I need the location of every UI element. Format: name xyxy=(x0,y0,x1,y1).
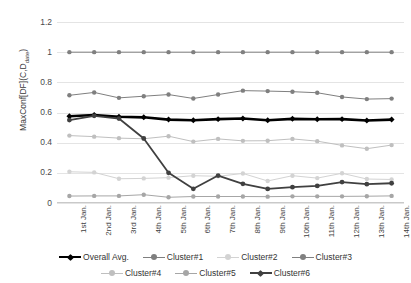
data-point xyxy=(365,147,369,151)
data-point xyxy=(315,184,320,189)
data-point xyxy=(190,117,196,123)
data-point xyxy=(241,50,245,54)
data-point xyxy=(216,194,220,198)
data-point xyxy=(241,194,245,198)
data-point xyxy=(142,193,146,197)
data-point xyxy=(117,116,122,121)
data-point xyxy=(216,173,221,178)
data-point xyxy=(67,50,71,54)
data-point xyxy=(389,96,393,100)
legend-label: Overall Avg. xyxy=(83,252,129,262)
legend-row-2: Cluster#4Cluster#5Cluster#6 xyxy=(0,265,411,281)
data-point xyxy=(265,187,270,192)
series-cluster-5 xyxy=(67,193,394,200)
x-axis-tick-label: 4th Jan. xyxy=(154,205,163,249)
data-point xyxy=(216,137,220,141)
legend-item-cluster-4[interactable]: Cluster#4 xyxy=(101,268,161,278)
legend-item-cluster-5[interactable]: Cluster#5 xyxy=(175,268,235,278)
series-cluster-2 xyxy=(67,170,394,184)
data-point xyxy=(241,139,245,143)
data-point xyxy=(240,116,246,122)
x-axis-tick-label: 9th Jan. xyxy=(278,205,287,249)
data-point xyxy=(67,133,71,137)
data-point xyxy=(339,116,345,122)
data-point xyxy=(67,170,71,174)
data-point xyxy=(166,170,171,175)
data-point xyxy=(265,139,269,143)
data-point xyxy=(290,50,294,54)
plot-area xyxy=(57,22,404,203)
data-point xyxy=(241,88,245,92)
legend-item-cluster-6[interactable]: Cluster#6 xyxy=(250,268,310,278)
data-point xyxy=(340,194,344,198)
data-point xyxy=(290,194,294,198)
data-point xyxy=(340,50,344,54)
legend-label: Cluster#1 xyxy=(167,252,203,262)
data-point xyxy=(117,177,121,181)
x-axis-tick-label: 5th Jan. xyxy=(179,205,188,249)
data-point xyxy=(215,116,221,122)
data-point xyxy=(166,134,170,138)
data-point xyxy=(290,137,294,141)
x-axis-tick-label: 3rd Jan. xyxy=(129,205,138,249)
data-point xyxy=(241,171,245,175)
data-point xyxy=(142,176,146,180)
data-point xyxy=(340,95,344,99)
data-point xyxy=(141,136,146,141)
x-axis-tick-label: 2nd Jan. xyxy=(104,205,113,249)
data-point xyxy=(389,194,393,198)
data-point xyxy=(67,194,71,198)
series-cluster-4 xyxy=(67,133,394,151)
y-axis-tick-label: 0 xyxy=(6,199,52,208)
data-point xyxy=(142,94,146,98)
data-point xyxy=(365,177,369,181)
data-point xyxy=(166,92,170,96)
x-axis-tick-label: 13th Jan. xyxy=(377,205,386,249)
data-point xyxy=(365,50,369,54)
series-cluster-6 xyxy=(67,113,394,191)
data-point xyxy=(290,89,294,93)
y-axis-tick-label: 0.8 xyxy=(6,78,52,87)
x-axis-tick-labels: 1st Jan.2nd Jan.3rd Jan.4th Jan.5th Jan.… xyxy=(57,205,404,249)
data-point xyxy=(191,174,195,178)
data-point xyxy=(389,181,394,186)
x-axis-tick-label: 8th Jan. xyxy=(253,205,262,249)
legend-item-overall-avg[interactable]: Overall Avg. xyxy=(59,252,129,262)
data-point xyxy=(389,50,393,54)
data-point xyxy=(142,50,146,54)
y-axis-tick-label: 1.2 xyxy=(6,18,52,27)
data-point xyxy=(315,139,319,143)
chart-container: MaxConf[DF](C,Ddate) 00.20.40.60.811.2 1… xyxy=(0,0,411,283)
data-point xyxy=(67,118,72,123)
data-point xyxy=(141,114,147,120)
data-point xyxy=(265,179,269,183)
legend-marker-icon xyxy=(143,253,165,262)
data-point xyxy=(389,117,395,123)
data-point xyxy=(216,50,220,54)
data-point xyxy=(265,89,269,93)
data-point xyxy=(265,117,271,123)
legend-item-cluster-1[interactable]: Cluster#1 xyxy=(143,252,203,262)
data-point xyxy=(340,171,344,175)
data-point xyxy=(117,194,121,198)
data-point xyxy=(166,117,172,123)
data-point xyxy=(191,194,195,198)
x-axis-tick-label: 14th Jan. xyxy=(402,205,411,249)
gridline xyxy=(57,203,404,204)
x-axis-tick-label: 12th Jan. xyxy=(352,205,361,249)
legend-item-cluster-3[interactable]: Cluster#3 xyxy=(292,252,352,262)
legend-item-cluster-2[interactable]: Cluster#2 xyxy=(217,252,277,262)
y-axis-tick-label: 0.4 xyxy=(6,138,52,147)
y-axis-tick-label: 1 xyxy=(6,48,52,57)
data-point xyxy=(92,194,96,198)
data-point xyxy=(365,194,369,198)
series-layer xyxy=(57,22,404,203)
data-point xyxy=(364,182,369,187)
series-cluster-1 xyxy=(67,88,394,101)
data-point xyxy=(191,96,195,100)
data-point xyxy=(265,50,269,54)
legend-row-1: Overall Avg.Cluster#1Cluster#2Cluster#3 xyxy=(0,249,411,265)
legend-marker-icon xyxy=(101,269,123,278)
data-point xyxy=(365,97,369,101)
data-point xyxy=(166,195,170,199)
